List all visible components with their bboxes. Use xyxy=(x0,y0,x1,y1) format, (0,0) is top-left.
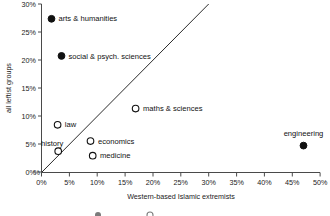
y-tick-label-5: 5% xyxy=(26,140,37,149)
point-label-arts-humanities: arts & humanities xyxy=(59,14,118,23)
x-tick-label-40: 40% xyxy=(257,178,272,187)
x-tick-label-20: 20% xyxy=(146,178,161,187)
marker-open-icon xyxy=(89,152,96,159)
data-points: arts & humanities social & psych. scienc… xyxy=(41,14,323,160)
origin-extra-percent: % xyxy=(34,168,41,177)
marker-open-icon xyxy=(54,122,61,129)
point-label-economics: economics xyxy=(98,137,134,146)
data-point-arts-humanities[interactable]: arts & humanities xyxy=(48,14,117,23)
scatter-chart: 30% 25% 20% 15% 10% 5% 0% % xyxy=(0,0,330,216)
x-tick-label-15: 15% xyxy=(118,178,133,187)
x-axis: 0% 5% 10% 15% 20% 25% 30% 35% 40% 45% 50… xyxy=(36,173,328,188)
x-tick-label-50: 50% xyxy=(313,178,328,187)
x-tick-label-35: 35% xyxy=(229,178,244,187)
data-point-maths-sciences[interactable]: maths & sciences xyxy=(132,104,202,113)
y-tick-label-15: 15% xyxy=(22,84,37,93)
data-point-economics[interactable]: economics xyxy=(87,137,134,146)
marker-filled-icon xyxy=(48,15,55,22)
x-tick-label-0: 0% xyxy=(36,178,47,187)
point-label-medicine: medicine xyxy=(100,151,130,160)
point-label-law: law xyxy=(65,120,77,129)
data-point-law[interactable]: law xyxy=(54,120,76,129)
marker-filled-icon xyxy=(300,142,307,149)
data-point-social-psych-sciences[interactable]: social & psych. sciences xyxy=(58,52,151,61)
chart-canvas: 30% 25% 20% 15% 10% 5% 0% % xyxy=(0,0,330,216)
y-axis: 30% 25% 20% 15% 10% 5% 0% % xyxy=(22,0,42,177)
y-tick-label-10: 10% xyxy=(22,112,37,121)
marker-filled-icon xyxy=(58,53,65,60)
x-axis-ticks xyxy=(42,173,321,177)
x-tick-label-45: 45% xyxy=(285,178,300,187)
data-point-medicine[interactable]: medicine xyxy=(89,151,130,160)
point-label-social-psych-sciences: social & psych. sciences xyxy=(69,52,152,61)
x-axis-title: Western-based Islamic extremists xyxy=(127,192,235,201)
data-point-engineering[interactable]: engineering xyxy=(284,129,324,149)
marker-open-icon xyxy=(87,138,94,145)
marker-open-icon xyxy=(55,148,62,155)
x-tick-label-30: 30% xyxy=(202,178,217,187)
y-tick-label-20: 20% xyxy=(22,56,37,65)
y-axis-title: all leftist groups xyxy=(4,63,13,113)
x-tick-label-10: 10% xyxy=(90,178,105,187)
point-label-history: history xyxy=(41,139,64,148)
marker-open-icon xyxy=(132,105,139,112)
point-label-maths-sciences: maths & sciences xyxy=(143,104,203,113)
x-tick-label-25: 25% xyxy=(174,178,189,187)
diagonal-reference-line xyxy=(42,4,209,173)
y-tick-label-25: 25% xyxy=(22,28,37,37)
x-tick-label-5: 5% xyxy=(64,178,75,187)
legend-truncated xyxy=(95,212,153,216)
data-point-history[interactable]: history xyxy=(41,139,64,154)
point-label-engineering: engineering xyxy=(284,129,324,138)
y-tick-label-30: 30% xyxy=(22,0,37,9)
legend-open-marker-icon xyxy=(147,212,153,216)
legend-filled-marker-icon xyxy=(95,212,101,216)
